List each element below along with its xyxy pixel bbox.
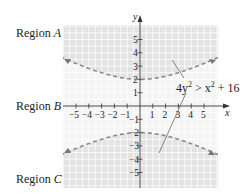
svg-text:−5: −5 [129, 168, 139, 178]
svg-text:4: 4 [133, 48, 138, 58]
svg-text:4: 4 [188, 110, 193, 120]
x-axis-label: x [224, 107, 230, 118]
svg-text:2: 2 [163, 110, 168, 120]
svg-text:1: 1 [150, 110, 155, 120]
svg-text:1: 1 [133, 88, 138, 98]
svg-text:5: 5 [133, 35, 138, 45]
region-a-label: Region A [16, 26, 61, 41]
region-c-label: Region C [16, 172, 62, 187]
svg-text:3: 3 [133, 62, 138, 72]
y-axis-arrow-icon [138, 15, 143, 22]
svg-text:−5: −5 [69, 110, 79, 120]
inequality-annotation: 4y2 > x2 + 16 [176, 80, 240, 96]
region-b-label: Region B [16, 99, 61, 114]
svg-text:−3: −3 [129, 141, 139, 151]
svg-text:−2: −2 [107, 110, 117, 120]
svg-text:−4: −4 [82, 110, 92, 120]
svg-text:−3: −3 [95, 110, 105, 120]
y-axis-label: y [132, 11, 138, 22]
svg-text:5: 5 [201, 110, 206, 120]
svg-text:−4: −4 [129, 155, 139, 165]
svg-text:−1: −1 [129, 115, 139, 125]
